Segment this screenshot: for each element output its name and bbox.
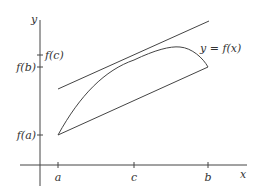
mvt-diagram: y x f(c) f(b) f(a) a c b y = f(x) [0,0,262,194]
y-axis-label: y [30,13,38,26]
y-tick-label-fb: f(b) [15,61,36,74]
x-tick-label-a: a [55,171,62,184]
tangent-line [58,21,209,89]
x-tick-label-b: b [204,171,211,184]
curve [58,47,208,135]
x-tick-label-c: c [131,171,137,184]
y-tick-label-fc: f(c) [44,49,64,62]
x-axis-label: x [240,168,247,181]
y-tick-label-fa: f(a) [16,129,36,142]
curve-label: y = f(x) [199,42,241,55]
